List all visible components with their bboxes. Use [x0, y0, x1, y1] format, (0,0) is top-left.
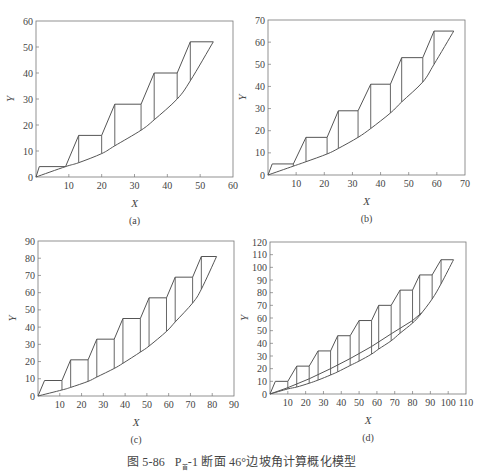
- slip-surface-line: [270, 260, 454, 394]
- y-tick-label: 50: [257, 325, 267, 336]
- slope-profile-line: [270, 260, 454, 394]
- y-tick-label: 0: [30, 391, 35, 402]
- slope-profile-line: [36, 42, 213, 177]
- y-tick-label: 20: [257, 363, 267, 374]
- y-tick-label: 20: [23, 120, 33, 131]
- chart-a: 0102030405060102030405060XY(a): [4, 16, 238, 228]
- x-tick-label: 60: [228, 180, 238, 191]
- slip-surface-line: [36, 42, 213, 177]
- x-axis-label: X: [132, 416, 141, 428]
- y-tick-label: 30: [23, 94, 33, 105]
- x-tick-label: 100: [441, 397, 456, 408]
- x-tick-label: 20: [97, 180, 107, 191]
- x-tick-label: 10: [55, 399, 65, 410]
- y-axis-label: Y: [236, 93, 248, 101]
- y-tick-label: 30: [255, 103, 265, 114]
- x-tick-label: 60: [372, 397, 382, 408]
- y-tick-label: 70: [25, 270, 35, 281]
- x-tick-label: 90: [425, 397, 435, 408]
- y-tick-label: 10: [25, 373, 35, 384]
- y-tick-label: 90: [25, 236, 35, 247]
- x-tick-label: 80: [408, 397, 418, 408]
- x-tick-label: 30: [130, 180, 140, 191]
- x-tick-label: 20: [319, 178, 329, 189]
- x-tick-label: 50: [404, 178, 414, 189]
- y-tick-label: 60: [23, 16, 33, 27]
- y-tick-label: 100: [252, 262, 267, 273]
- y-tick-label: 80: [257, 287, 267, 298]
- x-tick-label: 10: [291, 178, 301, 189]
- chart-c: 0102030405060708090102030405060708090XY(…: [6, 236, 239, 447]
- panel-label: (a): [129, 215, 140, 227]
- y-tick-label: 30: [257, 351, 267, 362]
- y-tick-label: 60: [257, 313, 267, 324]
- x-tick-label: 20: [301, 397, 311, 408]
- x-tick-label: 20: [77, 399, 87, 410]
- x-tick-label: 50: [354, 397, 364, 408]
- chart-d: 0102030405060708090100110120102030405060…: [238, 237, 473, 445]
- x-tick-label: 30: [347, 178, 357, 189]
- y-tick-label: 110: [252, 249, 267, 260]
- section-prefix: P: [175, 455, 182, 469]
- x-tick-label: 50: [195, 180, 205, 191]
- panel-label: (d): [362, 432, 374, 444]
- x-tick-label: 30: [318, 397, 328, 408]
- y-tick-label: 10: [257, 376, 267, 387]
- y-tick-label: 70: [257, 300, 267, 311]
- y-tick-label: 10: [255, 147, 265, 158]
- slope-profile-line: [268, 31, 454, 175]
- x-tick-label: 10: [283, 397, 293, 408]
- x-axis-label: X: [130, 197, 139, 209]
- y-tick-label: 0: [262, 389, 267, 400]
- x-tick-label: 60: [432, 178, 442, 189]
- y-tick-label: 80: [25, 253, 35, 264]
- y-tick-label: 120: [252, 237, 267, 248]
- plot-frame: [270, 242, 466, 394]
- plot-frame: [268, 20, 465, 175]
- x-tick-label: 30: [98, 399, 108, 410]
- x-tick-label: 10: [64, 180, 74, 191]
- x-axis-label: X: [362, 195, 371, 207]
- y-axis-label: Y: [238, 313, 250, 321]
- chart-panels: 0102030405060102030405060XY(a)0102030405…: [0, 0, 483, 472]
- figure-number: 图 5-86: [127, 455, 165, 469]
- y-tick-label: 20: [255, 125, 265, 136]
- y-tick-label: 0: [28, 172, 33, 183]
- x-tick-label: 40: [376, 178, 386, 189]
- panel-label: (b): [361, 213, 373, 225]
- x-tick-label: 40: [120, 399, 130, 410]
- chart-b: 01020304050607010203040506070XY(b): [236, 15, 470, 226]
- x-tick-label: 40: [162, 180, 172, 191]
- y-tick-label: 90: [257, 275, 267, 286]
- x-tick-label: 50: [142, 399, 152, 410]
- y-tick-label: 30: [25, 339, 35, 350]
- figure: 0102030405060102030405060XY(a)0102030405…: [0, 0, 483, 472]
- x-tick-label: 80: [207, 399, 217, 410]
- x-tick-label: 110: [459, 397, 474, 408]
- x-tick-label: 70: [460, 178, 470, 189]
- x-tick-label: 40: [336, 397, 346, 408]
- y-axis-label: Y: [6, 314, 18, 322]
- section-suffix: -1 断面 46°边坡角计算概化模型: [188, 455, 356, 469]
- y-tick-label: 50: [25, 304, 35, 315]
- slip-surface-line: [268, 31, 454, 175]
- y-tick-label: 50: [23, 42, 33, 53]
- plot-frame: [36, 21, 233, 177]
- panel-label: (c): [130, 434, 141, 446]
- y-tick-label: 60: [255, 37, 265, 48]
- y-tick-label: 40: [23, 68, 33, 79]
- y-tick-label: 40: [25, 322, 35, 333]
- x-tick-label: 60: [164, 399, 174, 410]
- y-tick-label: 60: [25, 287, 35, 298]
- x-axis-label: X: [364, 414, 373, 426]
- x-tick-label: 70: [185, 399, 195, 410]
- y-tick-label: 40: [255, 81, 265, 92]
- y-tick-label: 20: [25, 356, 35, 367]
- y-tick-label: 40: [257, 338, 267, 349]
- x-tick-label: 70: [390, 397, 400, 408]
- y-tick-label: 50: [255, 59, 265, 70]
- secondary-surface-line: [270, 313, 421, 394]
- figure-caption: 图 5-86 P首-1 断面 46°边坡角计算概化模型: [0, 452, 483, 471]
- x-tick-label: 90: [229, 399, 239, 410]
- y-tick-label: 10: [23, 146, 33, 157]
